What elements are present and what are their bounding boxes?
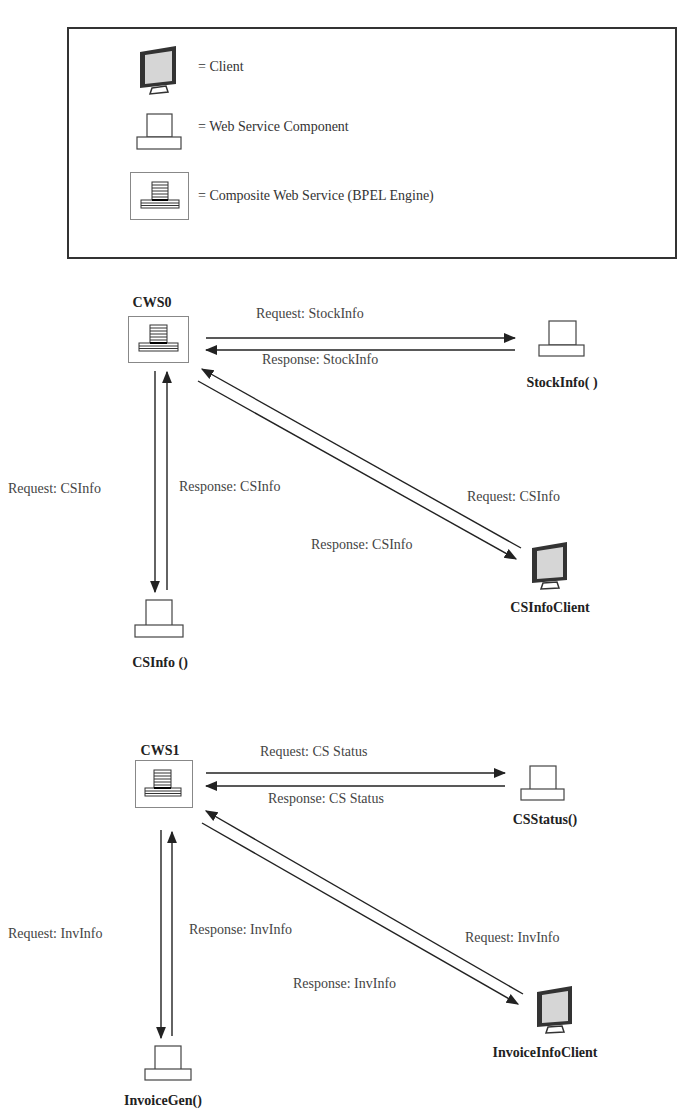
message-response-stockinfo: Response: StockInfo bbox=[262, 352, 378, 368]
composite-label-cws0: CWS0 bbox=[133, 295, 172, 311]
message-request-invinfo: Request: InvInfo bbox=[8, 926, 102, 942]
composite-web-service-icon[interactable] bbox=[135, 760, 195, 810]
service-label-invoicegen: InvoiceGen() bbox=[124, 1093, 202, 1109]
service-label-csstatus: CSStatus() bbox=[513, 812, 578, 828]
composite-label-cws1: CWS1 bbox=[141, 743, 180, 759]
message-response-invinfo-client: Response: InvInfo bbox=[293, 976, 396, 992]
client-label-csinfoclient: CSInfoClient bbox=[510, 600, 589, 616]
message-response-csinfo: Response: CSInfo bbox=[179, 479, 281, 495]
message-response-csstatus: Response: CS Status bbox=[268, 791, 384, 807]
message-request-csinfo-client: Request: CSInfo bbox=[467, 489, 560, 505]
client-monitor-icon[interactable] bbox=[533, 985, 579, 1037]
composite-web-service-icon[interactable] bbox=[128, 316, 190, 364]
message-response-invinfo: Response: InvInfo bbox=[189, 922, 292, 938]
client-label-invoiceinfoclient: InvoiceInfoClient bbox=[493, 1045, 598, 1061]
web-service-component-icon[interactable] bbox=[144, 1045, 194, 1085]
message-request-csstatus: Request: CS Status bbox=[260, 744, 367, 760]
client-monitor-icon[interactable] bbox=[528, 541, 574, 593]
message-request-stockinfo: Request: StockInfo bbox=[256, 306, 364, 322]
web-service-component-icon[interactable] bbox=[538, 320, 586, 360]
message-request-invinfo-client: Request: InvInfo bbox=[465, 930, 559, 946]
web-service-component-icon[interactable] bbox=[520, 765, 566, 805]
service-label-stockinfo: StockInfo( ) bbox=[526, 375, 597, 391]
web-service-component-icon[interactable] bbox=[134, 599, 184, 639]
message-response-csinfo-client: Response: CSInfo bbox=[311, 537, 413, 553]
service-label-csinfo: CSInfo () bbox=[132, 655, 188, 671]
message-request-csinfo: Request: CSInfo bbox=[8, 481, 101, 497]
